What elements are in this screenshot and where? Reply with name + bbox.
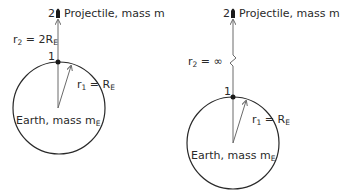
- point-2-label-right: 2: [223, 7, 230, 20]
- earth-label-right: Earth, mass mE: [191, 149, 276, 163]
- diagram-canvas: 2 Projectile, mass m r2 = 2RE 1 r1 = RE …: [0, 0, 341, 194]
- rocket-icon-left: [56, 9, 60, 19]
- r2-label-left: r2 = 2RE: [13, 33, 58, 47]
- r1-label-left: r1 = RE: [77, 78, 115, 92]
- right-panel: 2 Projectile, mass m r2 = ∞ 1 r1 = RE Ea…: [187, 7, 340, 189]
- projectile-label-right: Projectile, mass m: [239, 7, 340, 20]
- point-1-dot-right: [231, 95, 236, 100]
- point-1-dot-left: [56, 60, 61, 65]
- point-2-label-left: 2: [48, 7, 55, 20]
- r2-line-right: [230, 20, 236, 143]
- r1-label-right: r1 = RE: [252, 113, 290, 127]
- point-1-label-left: 1: [48, 50, 55, 63]
- earth-circle-left: [13, 62, 105, 154]
- r2-label-right: r2 = ∞: [188, 55, 223, 69]
- left-panel: 2 Projectile, mass m r2 = 2RE 1 r1 = RE …: [13, 7, 165, 154]
- point-1-label-right: 1: [224, 85, 231, 98]
- r1-arrow-left: [58, 66, 71, 108]
- projectile-label-left: Projectile, mass m: [64, 7, 165, 20]
- r1-arrow-right: [233, 101, 246, 143]
- earth-label-left: Earth, mass mE: [16, 114, 101, 128]
- rocket-icon-right: [231, 9, 235, 19]
